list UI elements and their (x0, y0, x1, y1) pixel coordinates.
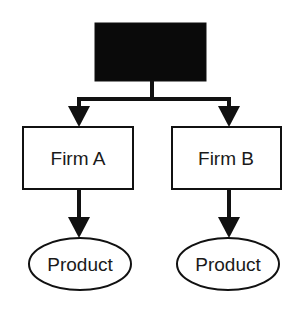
product-a-label: Product (47, 254, 113, 275)
product-a-node: Product (29, 238, 131, 290)
top-connector (77, 81, 231, 108)
product-b-node: Product (177, 238, 279, 290)
firm-a-node: Firm A (23, 127, 133, 189)
top-node-box (95, 23, 206, 81)
firm-a-label: Firm A (51, 148, 106, 169)
firm-b-label: Firm B (198, 148, 254, 169)
arrow-down-icon (68, 217, 90, 238)
arrow-down-icon (218, 217, 240, 238)
arrow-firm-a-to-product (68, 189, 90, 238)
arrow-firm-b-to-product (218, 189, 240, 238)
product-b-label: Product (195, 254, 261, 275)
arrow-to-firm-a-icon (68, 106, 90, 127)
arrow-to-firm-b-icon (218, 106, 240, 127)
firm-b-node: Firm B (172, 127, 281, 189)
diagram-canvas: Firm A Firm B Product Product (0, 0, 295, 311)
